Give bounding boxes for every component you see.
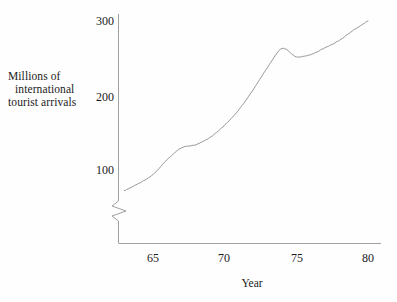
y-axis-break-icon bbox=[112, 201, 126, 221]
chart-figure: Millions of international tourist arriva… bbox=[0, 0, 397, 302]
data-series-line bbox=[124, 21, 368, 191]
chart-plot-area bbox=[0, 0, 397, 302]
